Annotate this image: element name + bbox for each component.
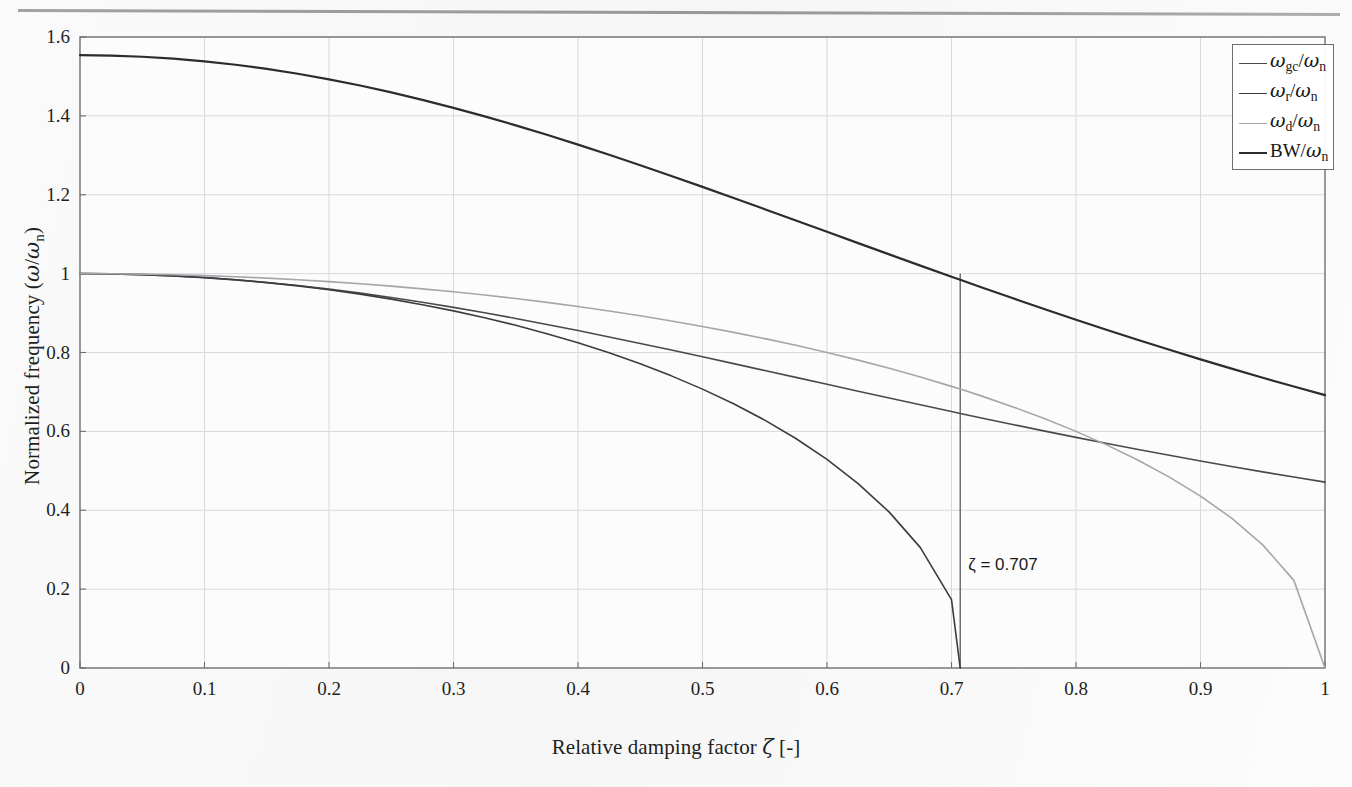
legend[interactable]: ωgc/ωnωr/ωnωd/ωnBW/ωn (1232, 44, 1334, 170)
y-tick-label: 0.4 (0, 499, 70, 521)
legend-item-label: ωr/ωn (1270, 81, 1318, 104)
x-tick-label: 0.4 (566, 678, 590, 700)
legend-color-swatch (1239, 152, 1267, 154)
y-tick-label: 0.6 (0, 420, 70, 442)
legend-color-swatch (1239, 63, 1267, 64)
y-tick-label: 1.4 (0, 105, 70, 127)
legend-color-swatch (1239, 123, 1267, 124)
y-tick-label: 0 (0, 657, 70, 679)
x-tick-label: 1 (1320, 678, 1330, 700)
x-tick-label: 0.3 (442, 678, 466, 700)
legend-color-swatch (1239, 93, 1267, 94)
x-tick-label: 0.9 (1189, 678, 1213, 700)
y-tick-label: 0.2 (0, 578, 70, 600)
legend-item[interactable]: ωr/ωn (1233, 78, 1333, 108)
legend-item[interactable]: ωgc/ωn (1233, 48, 1333, 78)
x-tick-label: 0.5 (691, 678, 715, 700)
y-tick-label: 1.2 (0, 184, 70, 206)
legend-item[interactable]: BW/ωn (1233, 138, 1333, 168)
legend-item-label: BW/ωn (1270, 141, 1328, 164)
plot-svg (0, 0, 1352, 787)
x-tick-label: 0.2 (317, 678, 341, 700)
x-tick-label: 0 (75, 678, 85, 700)
figure-canvas: Normalized frequency (ω/ωn) Relative dam… (0, 0, 1352, 787)
y-tick-label: 1.6 (0, 26, 70, 48)
zeta-annotation-label: ζ = 0.707 (968, 555, 1037, 575)
legend-item[interactable]: ωd/ωn (1233, 108, 1333, 138)
legend-item-label: ωd/ωn (1270, 111, 1320, 134)
legend-item-label: ωgc/ωn (1270, 51, 1326, 74)
x-tick-label: 0.8 (1064, 678, 1088, 700)
y-tick-label: 0.8 (0, 342, 70, 364)
x-tick-label: 0.1 (193, 678, 217, 700)
x-tick-label: 0.6 (815, 678, 839, 700)
y-tick-label: 1 (0, 263, 70, 285)
x-tick-label: 0.7 (940, 678, 964, 700)
x-axis-title: Relative damping factor ζ [-] (0, 735, 1352, 760)
